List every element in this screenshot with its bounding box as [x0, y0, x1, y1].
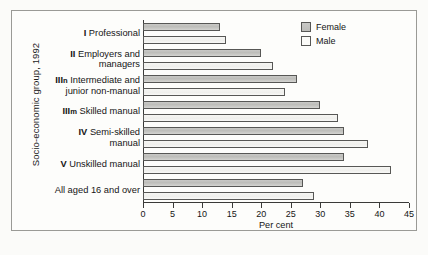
bar-slot: [143, 125, 409, 138]
category-label-line: manual: [30, 138, 140, 148]
bar-slot: [143, 138, 409, 151]
legend-item: Female: [301, 22, 346, 32]
x-tick-label: 0: [140, 209, 145, 219]
x-tick: [202, 203, 203, 208]
bar-slot: [143, 72, 409, 85]
x-tick-label: 15: [227, 209, 237, 219]
legend-label: Male: [316, 36, 336, 46]
bar-male: [143, 140, 368, 148]
bar-group: [143, 177, 409, 203]
bar-group: [143, 151, 409, 177]
bar-slot: [143, 98, 409, 111]
scanned-page-background: Socio-economic group, 1992 I Professiona…: [0, 0, 428, 255]
category-label-line: junior non-manual: [30, 86, 140, 96]
bar-slot: [143, 33, 409, 46]
category-label: V Unskilled manual: [30, 159, 140, 169]
bar-slot: [143, 151, 409, 164]
x-tick-label: 20: [256, 209, 266, 219]
bar-group: [143, 46, 409, 72]
category-label-line: V Unskilled manual: [30, 159, 140, 169]
bar-female: [143, 153, 344, 161]
x-tick: [320, 203, 321, 208]
category-label: IV Semi-skilledmanual: [30, 127, 140, 148]
bar-slot: [143, 111, 409, 124]
bar-slot: [143, 85, 409, 98]
bar-female: [143, 23, 220, 31]
x-tick-label: 10: [197, 209, 207, 219]
x-tick: [379, 203, 380, 208]
bar-female: [143, 179, 303, 187]
bar-male: [143, 62, 273, 70]
bar-slot: [143, 190, 409, 203]
x-tick-label: 25: [286, 209, 296, 219]
x-axis-title: Per cent: [143, 220, 409, 230]
category-label-line: I Professional: [30, 28, 140, 38]
figure-frame: Socio-economic group, 1992 I Professiona…: [11, 10, 417, 231]
category-label-line: II Employers and: [30, 49, 140, 59]
bar-group: [143, 20, 409, 46]
legend-label: Female: [316, 22, 346, 32]
bar-slot: [143, 46, 409, 59]
bar-female: [143, 127, 344, 135]
x-tick: [350, 203, 351, 208]
bar-slot: [143, 177, 409, 190]
bar-male: [143, 166, 391, 174]
female-swatch-icon: [301, 22, 311, 32]
x-tick-label: 35: [345, 209, 355, 219]
male-swatch-icon: [301, 36, 311, 46]
x-tick: [291, 203, 292, 208]
x-tick-label: 30: [315, 209, 325, 219]
bar-slot: [143, 59, 409, 72]
bar-female: [143, 49, 261, 57]
bar-female: [143, 101, 320, 109]
category-label: IIIn Intermediate andjunior non-manual: [30, 75, 140, 97]
bar-male: [143, 192, 314, 200]
category-label-line: IIIn Intermediate and: [30, 75, 140, 86]
category-label: I Professional: [30, 28, 140, 38]
category-label: IIIm Skilled manual: [30, 106, 140, 117]
x-tick: [261, 203, 262, 208]
x-tick: [232, 203, 233, 208]
bar-group: [143, 98, 409, 124]
bar-group: [143, 125, 409, 151]
x-tick-label: 40: [374, 209, 384, 219]
category-label-line: IV Semi-skilled: [30, 127, 140, 137]
bar-male: [143, 114, 338, 122]
category-label: II Employers andmanagers: [30, 49, 140, 70]
bar-groups: [143, 20, 409, 203]
bar-slot: [143, 164, 409, 177]
bar-group: [143, 72, 409, 98]
category-label: All aged 16 and over: [30, 185, 140, 195]
category-label-line: All aged 16 and over: [30, 185, 140, 195]
bar-female: [143, 75, 297, 83]
category-label-line: IIIm Skilled manual: [30, 106, 140, 117]
x-tick: [409, 203, 410, 208]
legend: FemaleMale: [301, 22, 346, 50]
x-tick-label: 5: [170, 209, 175, 219]
x-tick-label: 45: [404, 209, 414, 219]
plot-area: [143, 20, 409, 203]
x-tick: [173, 203, 174, 208]
bar-slot: [143, 20, 409, 33]
category-label-column: I ProfessionalII Employers andmanagersII…: [30, 20, 140, 203]
bar-male: [143, 36, 226, 44]
bar-male: [143, 88, 285, 96]
x-tick: [143, 203, 144, 208]
legend-item: Male: [301, 36, 346, 46]
category-label-line: managers: [30, 59, 140, 69]
